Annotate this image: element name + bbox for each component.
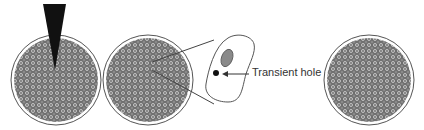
embryo-injection-panel bbox=[11, 4, 101, 125]
diagram-canvas bbox=[0, 0, 424, 130]
embryo-after-injection-panel bbox=[103, 35, 214, 125]
embryo-recovered-panel bbox=[324, 35, 414, 125]
transient-hole-label: Transient hole bbox=[252, 66, 321, 78]
hole-dot bbox=[213, 70, 219, 76]
cell-membrane bbox=[206, 35, 255, 102]
inset-cell bbox=[206, 35, 255, 102]
